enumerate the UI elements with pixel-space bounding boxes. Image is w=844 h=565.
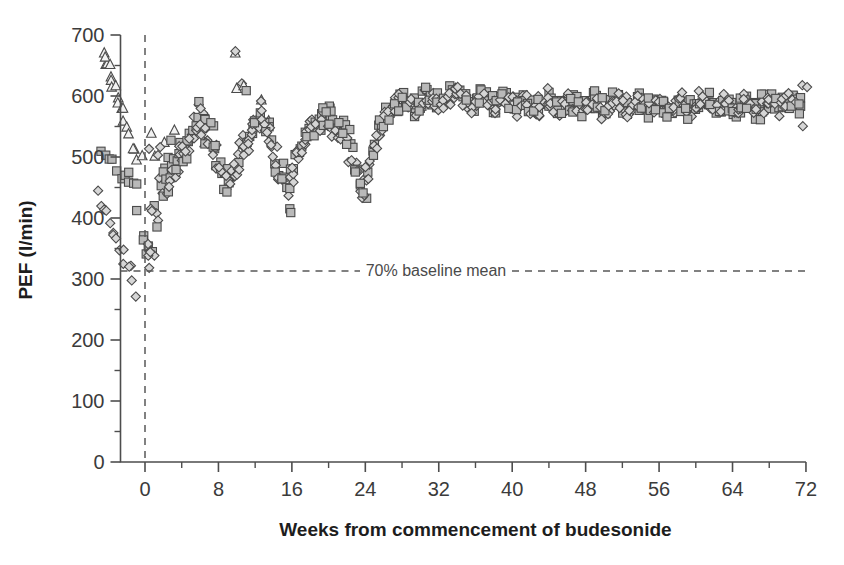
y-tick-label: 0 (93, 451, 104, 473)
x-tick-label: 0 (139, 478, 150, 500)
data-point (322, 108, 330, 116)
data-point (385, 116, 393, 124)
data-point (651, 106, 659, 114)
data-point (183, 155, 191, 163)
data-point (278, 175, 286, 183)
data-point (343, 140, 351, 148)
x-tick-label: 72 (795, 478, 817, 500)
data-point (795, 110, 803, 118)
x-axis-title: Weeks from commencement of budesonide (279, 519, 671, 540)
y-tick-label: 500 (71, 146, 104, 168)
data-point (223, 188, 231, 196)
x-tick-label: 8 (213, 478, 224, 500)
x-tick-label: 64 (721, 478, 743, 500)
data-point (153, 223, 161, 231)
data-point (395, 107, 403, 115)
data-point (798, 122, 807, 131)
data-point (133, 206, 141, 214)
data-point (131, 292, 140, 301)
data-point (167, 136, 175, 144)
data-point (339, 129, 347, 137)
data-point (335, 119, 343, 127)
y-tick-label: 300 (71, 268, 104, 290)
data-point (557, 109, 565, 117)
y-tick-label: 200 (71, 329, 104, 351)
data-point (475, 99, 483, 107)
data-point (578, 113, 586, 121)
data-point (125, 168, 133, 176)
data-point (94, 186, 103, 195)
data-point (106, 219, 115, 228)
y-tick-label: 100 (71, 390, 104, 412)
x-tick-label: 40 (501, 478, 523, 500)
chart-canvas: 70% baseline mean 0100200300400500600700… (0, 0, 844, 565)
y-tick-label: 600 (71, 85, 104, 107)
data-point (133, 180, 141, 188)
data-point (415, 107, 423, 115)
data-point (682, 104, 690, 112)
baseline-mean-label: 70% baseline mean (366, 262, 507, 279)
x-tick-label: 56 (648, 478, 670, 500)
data-point (127, 276, 136, 285)
data-point (795, 100, 803, 108)
data-point (147, 128, 157, 137)
x-tick-label: 16 (281, 478, 303, 500)
data-point (644, 114, 652, 122)
data-point (351, 168, 359, 176)
y-tick-label: 700 (71, 24, 104, 46)
data-point (743, 104, 751, 112)
y-tick-label: 400 (71, 207, 104, 229)
data-point (422, 83, 430, 91)
data-point (170, 125, 180, 134)
data-point (356, 179, 364, 187)
x-tick-label: 32 (428, 478, 450, 500)
data-point (462, 96, 470, 104)
x-tick-label: 48 (575, 478, 597, 500)
data-point (211, 141, 219, 149)
data-point (144, 144, 153, 153)
data-point (398, 93, 406, 101)
data-point (567, 94, 575, 102)
data-point (684, 115, 692, 123)
data-point (172, 165, 180, 173)
y-axis-title: PEF (l/min) (15, 200, 36, 299)
data-point (287, 208, 295, 216)
data-point (663, 113, 671, 121)
data-point (325, 120, 333, 128)
x-tick-label: 24 (354, 478, 376, 500)
data-point (359, 189, 367, 197)
pef-scatter-figure: 70% baseline mean 0100200300400500600700… (0, 0, 844, 565)
data-point (113, 167, 121, 175)
data-point (242, 87, 250, 95)
data-point (598, 94, 606, 102)
